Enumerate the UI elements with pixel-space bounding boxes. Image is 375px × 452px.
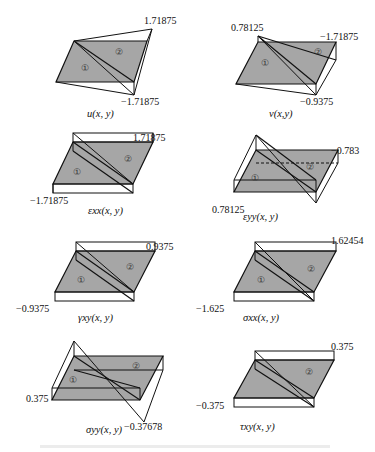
sigma-yy-surface-plot: ① ②: [0, 324, 187, 432]
panel-sigma-xx: ① ② 1.62454 −1.625 σxx(x, y): [188, 216, 375, 324]
max-value-label: 0.375: [331, 342, 354, 352]
svg-text:②: ②: [305, 367, 313, 377]
region-1-marker: ①: [261, 58, 269, 68]
panel-caption: τxy(x, y): [240, 422, 275, 433]
min-value-label: −0.9375: [16, 304, 49, 314]
v-surface-plot: ① ②: [188, 0, 375, 108]
svg-text:②: ②: [306, 162, 314, 172]
svg-text:②: ②: [124, 154, 132, 164]
svg-text:①: ①: [69, 375, 77, 385]
region-2-marker: ②: [314, 47, 322, 57]
max-value-label: 1.71875: [144, 16, 177, 26]
max-value-label: 0.375: [26, 394, 49, 404]
min-value-label: −0.9375: [300, 97, 333, 107]
panel-caption: γxy(x, y): [78, 313, 113, 324]
panel-caption: εxx(x, y): [88, 206, 123, 217]
extra-value-label: −1.71875: [320, 32, 358, 42]
min-value-label: −0.37678: [124, 422, 162, 432]
max-value-label: 0.78125: [212, 205, 245, 215]
region-2-marker: ②: [115, 47, 123, 57]
panel-caption: σyy(x, y): [86, 425, 122, 436]
panel-eps-yy: ① ② 0.78125 −0.783 εyy(x, y): [188, 108, 375, 216]
svg-text:①: ①: [77, 275, 85, 285]
eps-xx-surface-plot: ① ②: [0, 108, 187, 216]
svg-text:②: ②: [126, 262, 134, 272]
max-value-label: 1.71875: [133, 133, 166, 143]
panel-u: ① ② 1.71875 −1.71875 u(x, y): [0, 0, 187, 108]
min-value-label: −1.71875: [121, 97, 159, 107]
min-value-label: −1.71875: [30, 196, 68, 206]
panel-caption: σxx(x, y): [243, 313, 279, 324]
max-value-label: 0.9375: [146, 242, 174, 252]
svg-text:①: ①: [73, 167, 81, 177]
panel-tau-xy: ② 0.375 −0.375 τxy(x, y): [188, 324, 375, 432]
min-value-label: −0.783: [331, 146, 359, 156]
panel-v: ① ② 0.78125 −1.71875 −0.9375 v(x,y): [188, 0, 375, 108]
eps-yy-surface-plot: ① ②: [188, 108, 375, 216]
min-value-label: −1.625: [196, 304, 224, 314]
panel-gamma-xy: ① ② 0.9375 −0.9375 γxy(x, y): [0, 216, 187, 324]
figure-caption-illegible: [40, 445, 330, 448]
panel-eps-xx: ① ② 1.71875 −1.71875 εxx(x, y): [0, 108, 187, 216]
svg-text:①: ①: [251, 173, 259, 183]
max-value-label: 0.78125: [231, 23, 264, 33]
panel-sigma-yy: ① ② 0.375 −0.37678 σyy(x, y): [0, 324, 187, 432]
svg-text:②: ②: [132, 361, 140, 371]
svg-text:①: ①: [257, 275, 265, 285]
region-1-marker: ①: [81, 63, 89, 73]
min-value-label: −0.375: [196, 401, 224, 411]
svg-text:②: ②: [307, 264, 315, 274]
max-value-label: 1.62454: [331, 236, 364, 246]
